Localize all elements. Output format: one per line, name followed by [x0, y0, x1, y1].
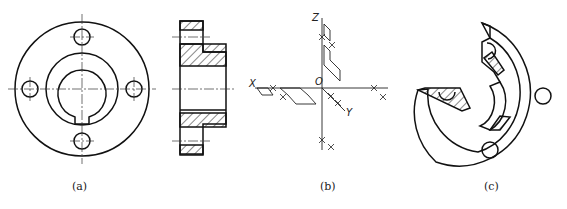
tick-marks — [270, 34, 386, 150]
figure-a-section-view — [172, 21, 234, 155]
axis-label-origin: O — [315, 76, 323, 87]
axis-label-z: Z — [311, 12, 320, 23]
axis-label-x: X — [248, 78, 257, 89]
axis-label-y: Y — [346, 107, 353, 118]
figure-c-isometric — [414, 23, 551, 166]
caption-a: (a) — [72, 180, 87, 193]
caption-c: (c) — [484, 180, 499, 193]
caption-b: (b) — [320, 180, 336, 193]
figure-a-front-view — [8, 14, 156, 164]
technical-drawing: Z X Y O — [0, 0, 567, 209]
